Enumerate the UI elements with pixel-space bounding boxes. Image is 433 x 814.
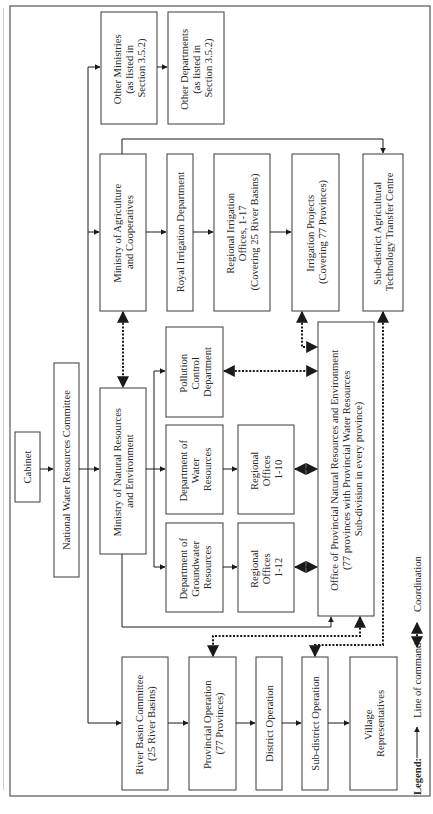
node-ministry-natural-resources: Ministry of Natural Resources and Enviro… — [100, 388, 146, 554]
label: (25 River Basins) — [146, 686, 158, 761]
node-national-water-resources-committee: National Water Resources Committee — [54, 363, 79, 577]
label: Representatives — [375, 690, 386, 757]
label: (Covering 77 Provinces) — [317, 179, 329, 284]
label: Ministry of Natural Resources — [112, 408, 123, 537]
label: and Cooperatives — [124, 195, 135, 269]
node-subdistrict-agricultural-centre: Sub-district Agricultural Technology Tra… — [363, 154, 403, 311]
node-subdistrict-operation: Sub-district Operation — [302, 657, 328, 790]
org-chart: Cabinet National Water Resources Committ… — [0, 0, 433, 814]
label: Section 3.5.2) — [203, 38, 215, 98]
label: (as listed in — [191, 44, 203, 94]
svg-text:River Basin Committee (2: River Basin Committee (25 River Basins) — [134, 672, 158, 775]
label: Control — [190, 357, 201, 389]
label: Resources — [202, 448, 213, 492]
label: Pollution — [178, 353, 189, 393]
label: Resources — [202, 546, 213, 590]
label: Groundwater — [190, 540, 201, 596]
label: and Environment — [124, 434, 135, 507]
label: Regional Irrigation — [225, 192, 236, 274]
label: District Operation — [264, 684, 275, 761]
label: Sub-district Operation — [310, 676, 321, 771]
svg-text:Ministry of Agriculture: Ministry of Agriculture and Cooperatives — [112, 181, 135, 283]
label: Offices — [261, 455, 272, 486]
legend-command-label: Line of command — [412, 642, 423, 718]
label: (as listed in — [124, 44, 136, 94]
label: Technology Transfer Centre — [384, 172, 395, 291]
label: National Water Resources Committee — [61, 390, 72, 550]
label: Sub-district Agricultural — [372, 182, 383, 285]
label: (Covering 25 River Basins) — [249, 173, 261, 290]
label: Sub-division in every province) — [353, 401, 365, 536]
label: Royal Irrigation Department — [175, 172, 186, 293]
label: Village — [363, 709, 374, 740]
node-regional-offices-1-10: Regional Offices 1-10 — [238, 425, 294, 514]
svg-text:District Operation: District Operation — [264, 684, 275, 761]
label: Offices — [261, 553, 272, 584]
label: Other Ministries — [112, 34, 123, 104]
node-provincial-operation: Provincial Operation (77 Provinces) — [189, 657, 236, 790]
svg-text:Other Ministries (as lis: Other Ministries (as listed in Section 3… — [112, 32, 148, 104]
svg-text:National Water Resources Commi: National Water Resources Committee — [61, 390, 72, 550]
legend-coordination-label: Coordination — [412, 555, 423, 612]
label: Regional — [249, 550, 260, 588]
label: Department of — [178, 538, 189, 600]
node-ministry-agriculture: Ministry of Agriculture and Cooperatives — [100, 154, 146, 311]
svg-text:Royal Irrigation Department: Royal Irrigation Department — [175, 172, 186, 293]
node-cabinet: Cabinet — [15, 432, 40, 502]
label: Offices, 1-17 — [237, 205, 248, 261]
label: Section 3.5.2) — [136, 38, 148, 98]
node-department-groundwater-resources: Department of Groundwater Resources — [166, 523, 223, 612]
node-district-operation: District Operation — [256, 657, 282, 790]
label: (77 Provinces) — [214, 692, 226, 755]
label: Regional — [249, 452, 260, 490]
node-office-provincial-natural-resources: Office of Provincial Natural Resources a… — [318, 322, 374, 616]
label: Cabinet — [22, 450, 33, 483]
label: Ministry of Agriculture — [112, 184, 123, 283]
node-other-departments: Other Departments (as listed in Section … — [168, 12, 224, 124]
legend: Legend: Line of command Coordination — [412, 555, 423, 795]
label: Department of — [178, 440, 189, 502]
legend-title: Legend: — [412, 758, 423, 795]
svg-text:Cabinet: Cabinet — [22, 450, 33, 483]
label: Irrigation Projects — [305, 195, 316, 272]
node-other-ministries: Other Ministries (as listed in Section 3… — [101, 12, 157, 124]
label: Water — [190, 458, 201, 483]
label: 1-10 — [273, 460, 284, 479]
node-village-representatives: Village Representatives — [350, 657, 397, 790]
node-regional-offices-1-12: Regional Offices 1-12 — [238, 523, 294, 612]
node-royal-irrigation-department: Royal Irrigation Department — [167, 154, 193, 311]
node-department-water-resources: Department of Water Resources — [166, 425, 223, 514]
label: (77 provinces with Provincial Water Reso… — [341, 371, 353, 570]
svg-text:Irrigation Projects (Cov: Irrigation Projects (Covering 77 Provinc… — [305, 179, 329, 284]
node-irrigation-projects: Irrigation Projects (Covering 77 Provinc… — [292, 154, 339, 311]
node-pollution-control-department: Pollution Control Department — [166, 327, 223, 417]
svg-text:Sub-district Operation: Sub-district Operation — [310, 676, 321, 771]
svg-text:Sub-district Agricultural: Sub-district Agricultural Technology Tra… — [372, 172, 395, 291]
label: Other Departments — [179, 29, 190, 110]
label: River Basin Committee — [134, 675, 145, 775]
label: 1-12 — [273, 558, 284, 577]
label: Office of Provincial Natural Resources a… — [329, 350, 340, 591]
node-river-basin-committee: River Basin Committee (25 River Basins) — [122, 657, 168, 790]
label: Department — [202, 347, 213, 397]
label: Provincial Operation — [202, 680, 213, 769]
node-regional-irrigation-offices: Regional Irrigation Offices, 1-17 (Cover… — [214, 154, 270, 311]
